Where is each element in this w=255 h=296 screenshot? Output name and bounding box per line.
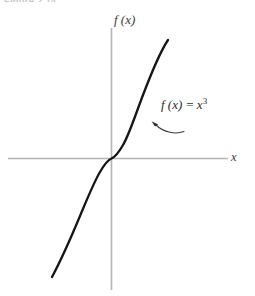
- plot-area: [0, 0, 255, 296]
- curve-equation-annotation: f (x)=x3: [161, 98, 207, 111]
- annotation-leader-line: [156, 125, 185, 133]
- annotation-equals-sign: =: [182, 97, 196, 112]
- annotation-exponent: 3: [202, 96, 207, 106]
- x-axis-label: x: [231, 151, 237, 164]
- annotation-function-name: f (x): [161, 97, 182, 112]
- y-axis-label: f (x): [114, 13, 135, 26]
- figure-container: Figure 2.14 f (x) x f (x)=x3: [0, 0, 255, 296]
